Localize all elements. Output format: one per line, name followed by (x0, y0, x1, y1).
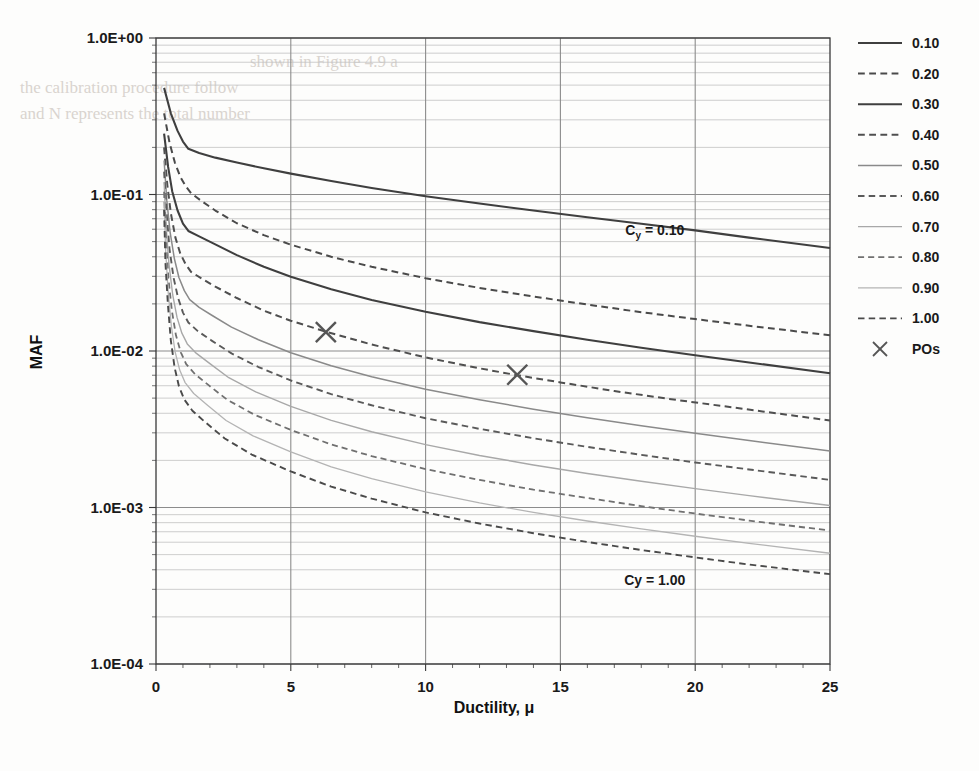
x-tick-label: 25 (822, 678, 839, 695)
legend-item-0-20[interactable]: 0.20 (858, 66, 939, 82)
annotation-text: C (625, 222, 635, 238)
legend-label: 0.80 (912, 249, 939, 265)
series-layer (164, 88, 830, 574)
po-marker (507, 365, 527, 385)
y-tick-label: 1.0E-03 (90, 499, 143, 516)
cy-100-annotation: Cy = 1.00 (624, 572, 685, 588)
legend-item-0-40[interactable]: 0.40 (858, 127, 939, 143)
legend-label: 0.50 (912, 157, 939, 173)
series-line-0-40 (164, 147, 830, 420)
x-axis-title: Ductility, μ (454, 699, 535, 716)
legend-label: 0.20 (912, 66, 939, 82)
y-tick-label: 1.0E-01 (90, 186, 143, 203)
axis-ticks (149, 38, 830, 671)
legend-label: 1.00 (912, 310, 939, 326)
series-line-0-30 (164, 134, 830, 374)
y-tick-label: 1.0E-04 (90, 655, 143, 672)
minor-gridlines (156, 45, 830, 617)
po-marker (316, 322, 336, 342)
annotation-text: = 0.10 (641, 222, 684, 238)
y-tick-label: 1.0E-02 (90, 342, 143, 359)
chart-legend: 0.100.200.300.400.500.600.700.800.901.00… (858, 35, 940, 357)
legend-label: 0.70 (912, 219, 939, 235)
series-line-1-00 (164, 210, 830, 574)
page-canvas: shown in Figure 4.9 athe calibration pro… (0, 0, 979, 771)
legend-item-1-00[interactable]: 1.00 (858, 310, 939, 326)
maf-ductility-chart: Cy = 0.10Cy = 1.00 0510152025 1.0E+001.0… (0, 0, 979, 771)
x-tick-label: 20 (687, 678, 704, 695)
x-tick-label: 10 (417, 678, 434, 695)
legend-item-0-70[interactable]: 0.70 (858, 219, 939, 235)
cy-010-annotation: Cy = 0.10 (625, 222, 684, 241)
legend-label: 0.60 (912, 188, 939, 204)
x-tick-label: 15 (552, 678, 569, 695)
legend-item-POs[interactable]: POs (873, 341, 940, 357)
legend-label: 0.40 (912, 127, 939, 143)
legend-item-0-90[interactable]: 0.90 (858, 280, 939, 296)
y-axis-title: MAF (28, 334, 45, 369)
legend-item-0-60[interactable]: 0.60 (858, 188, 939, 204)
series-line-0-70 (164, 182, 830, 505)
x-axis-tick-labels: 0510152025 (152, 678, 839, 695)
legend-label: 0.90 (912, 280, 939, 296)
x-tick-label: 5 (287, 678, 295, 695)
series-line-0-20 (164, 113, 830, 335)
legend-item-0-80[interactable]: 0.80 (858, 249, 939, 265)
legend-item-0-30[interactable]: 0.30 (858, 96, 939, 112)
x-tick-label: 0 (152, 678, 160, 695)
legend-label: 0.30 (912, 96, 939, 112)
series-line-0-10 (164, 88, 830, 248)
y-axis-tick-labels: 1.0E+001.0E-011.0E-021.0E-031.0E-04 (87, 29, 144, 672)
legend-item-0-50[interactable]: 0.50 (858, 157, 939, 173)
legend-label: 0.10 (912, 35, 939, 51)
legend-item-0-10[interactable]: 0.10 (858, 35, 939, 51)
series-line-0-90 (164, 201, 830, 553)
y-tick-label: 1.0E+00 (87, 29, 143, 46)
legend-label: POs (912, 341, 940, 357)
series-line-0-80 (164, 192, 830, 531)
